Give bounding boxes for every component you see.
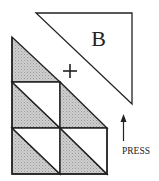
piece-b-label: B — [91, 26, 106, 51]
diagram-canvas: B PRESS — [0, 0, 159, 181]
plus-icon — [63, 64, 77, 78]
press-label: PRESS — [122, 146, 150, 156]
puzzle-diagram: B PRESS — [0, 0, 159, 181]
arrow-up-icon — [121, 114, 127, 141]
cell-r2c2-shaded — [60, 82, 107, 128]
cell-r1c1-shaded — [12, 37, 60, 82]
